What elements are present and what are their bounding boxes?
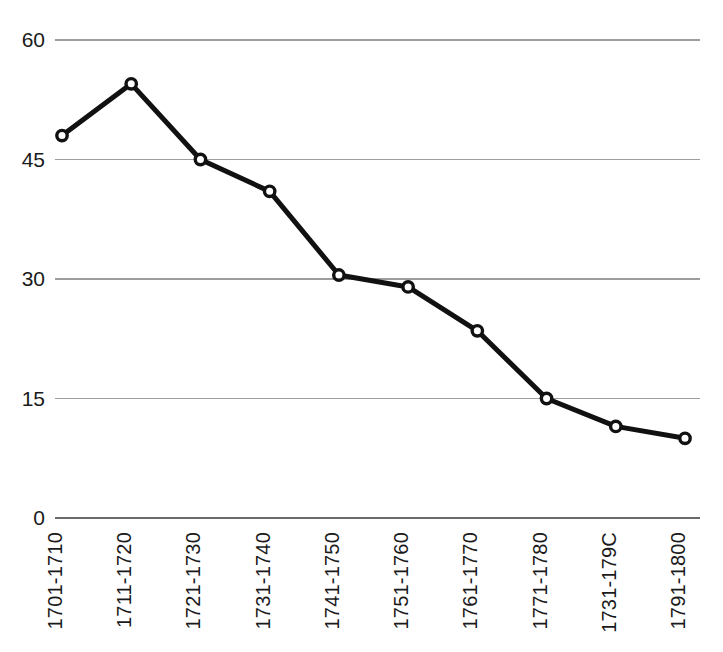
data-point-8 xyxy=(611,421,621,431)
data-point-0 xyxy=(57,130,67,140)
data-point-7 xyxy=(541,393,551,403)
x-tick-label-1: 1711-1720 xyxy=(113,532,135,628)
data-point-6 xyxy=(472,326,482,336)
x-tick-label-6: 1761-1770 xyxy=(459,532,481,629)
line-chart: 015304560 1701-17101711-17201721-1730173… xyxy=(0,0,723,652)
data-point-4 xyxy=(334,270,344,280)
data-point-2 xyxy=(195,154,205,164)
y-tick-label-60: 60 xyxy=(22,28,45,51)
y-tick-label-0: 0 xyxy=(33,506,45,529)
data-point-1 xyxy=(126,79,136,89)
x-tick-label-5: 1751-1760 xyxy=(390,532,412,629)
y-tick-label-30: 30 xyxy=(22,267,45,290)
data-point-3 xyxy=(264,186,274,196)
x-tick-label-7: 1771-1780 xyxy=(529,532,551,629)
y-tick-label-45: 45 xyxy=(22,148,45,171)
data-point-5 xyxy=(403,282,413,292)
x-tick-label-2: 1721-1730 xyxy=(182,532,204,629)
x-tick-label-3: 1731-1740 xyxy=(252,532,274,629)
x-tick-label-8: 1731-179C xyxy=(598,532,620,633)
x-tick-label-9: 1791-1800 xyxy=(667,532,689,629)
chart-canvas: 015304560 1701-17101711-17201721-1730173… xyxy=(0,0,723,652)
data-point-9 xyxy=(680,433,690,443)
y-tick-label-15: 15 xyxy=(22,387,45,410)
x-tick-label-0: 1701-1710 xyxy=(44,532,66,629)
x-tick-label-4: 1741-1750 xyxy=(321,532,343,629)
